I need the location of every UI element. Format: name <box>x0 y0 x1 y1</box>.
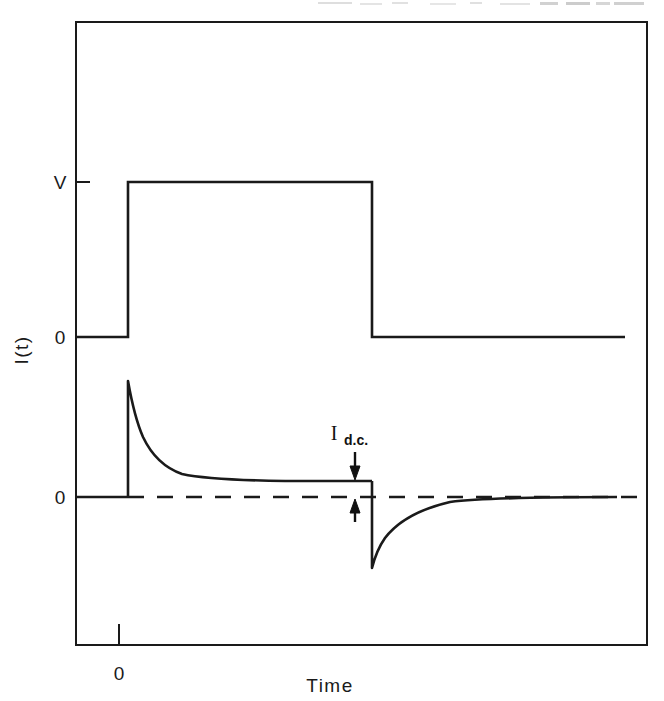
idc-label-main: I <box>331 422 338 444</box>
y-tick-label-zero-lower: 0 <box>55 487 66 508</box>
y-tick-label-zero-upper: 0 <box>55 327 66 348</box>
scan-noise-artifact <box>318 2 644 5</box>
discharge-current-curve <box>372 481 617 568</box>
plot-frame <box>76 22 647 645</box>
idc-arrow-group <box>350 452 360 522</box>
figure-canvas: V 0 0 I(t) 0 Time I d.c. <box>0 0 664 701</box>
y-axis-ticks <box>76 182 90 497</box>
idc-arrow-up-head <box>350 499 360 513</box>
idc-arrow-down-head <box>350 466 360 480</box>
x-axis-label: Time <box>306 675 354 696</box>
y-tick-label-V: V <box>54 172 67 193</box>
applied-voltage-trace <box>76 182 625 337</box>
x-tick-label-zero: 0 <box>114 663 125 684</box>
idc-label-subscript: d.c. <box>344 432 368 448</box>
y-axis-label: I(t) <box>11 335 32 364</box>
figure-root: V 0 0 I(t) 0 Time I d.c. <box>0 0 664 701</box>
